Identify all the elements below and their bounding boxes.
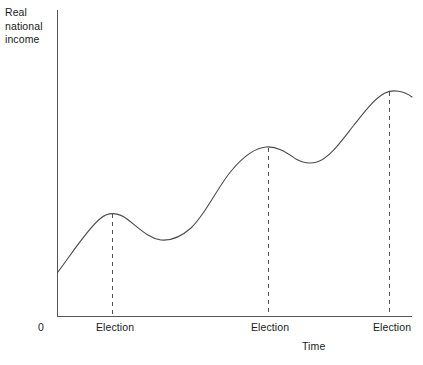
chart-figure: Real national income 0 Election Election… (0, 0, 423, 365)
origin-label: 0 (38, 321, 44, 334)
x-tick-label-election-3: Election (357, 321, 423, 334)
plot-area (0, 0, 423, 365)
x-tick-label-election-2: Election (235, 321, 305, 334)
income-curve (58, 91, 412, 272)
x-tick-label-election-1: Election (80, 321, 150, 334)
x-axis-label: Time (302, 340, 362, 353)
